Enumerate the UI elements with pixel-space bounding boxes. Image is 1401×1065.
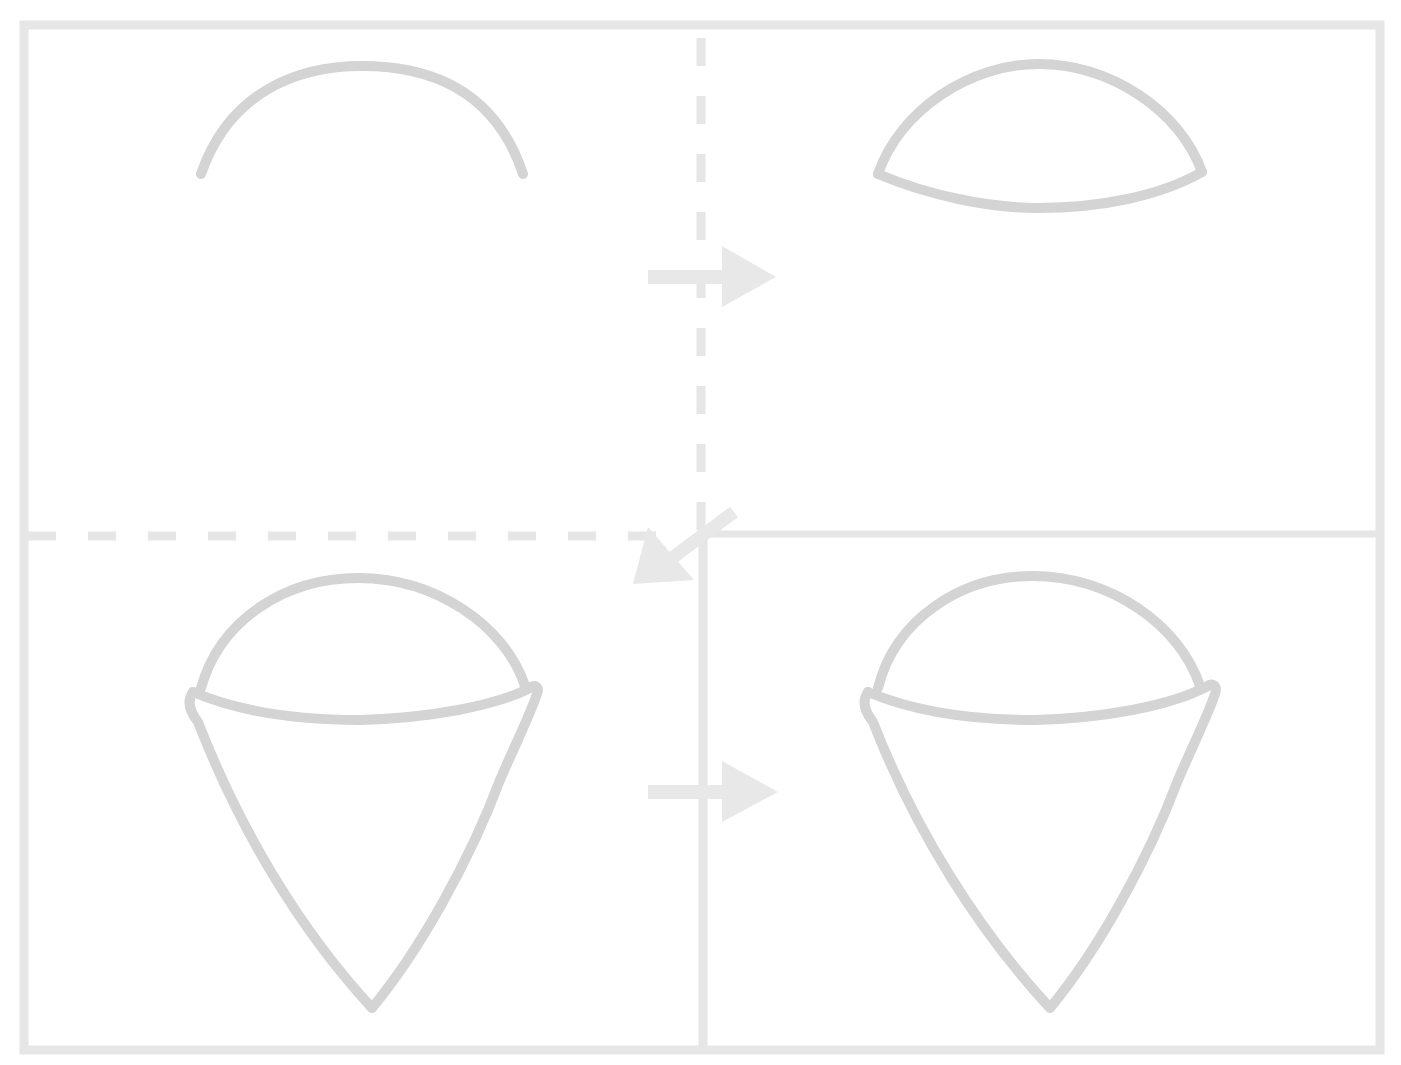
step-2-panel xyxy=(878,64,1202,208)
step-2-scoop-top xyxy=(878,64,1202,174)
step-4-cone xyxy=(864,684,1215,1008)
step-3-cone xyxy=(189,686,537,1008)
step-1-panel xyxy=(201,66,523,174)
arrow-right-icon xyxy=(648,761,778,822)
arrow-right-icon xyxy=(648,246,776,307)
step-3-panel xyxy=(189,578,537,1008)
step-2-scoop-bottom xyxy=(878,172,1202,208)
arrow-down-left-icon xyxy=(633,512,734,584)
step-4-panel xyxy=(864,576,1215,1008)
step-3-scoop-top xyxy=(201,578,525,688)
step-1-scoop-arch xyxy=(201,66,523,174)
step-4-scoop-top xyxy=(878,576,1200,688)
step-3-scoop-rim xyxy=(193,688,530,720)
step-4-scoop-rim xyxy=(868,686,1208,720)
drawing-steps-diagram: How to draw an ice cream cone in 4 steps xyxy=(0,0,1401,1065)
diagram-canvas xyxy=(0,0,1401,1065)
